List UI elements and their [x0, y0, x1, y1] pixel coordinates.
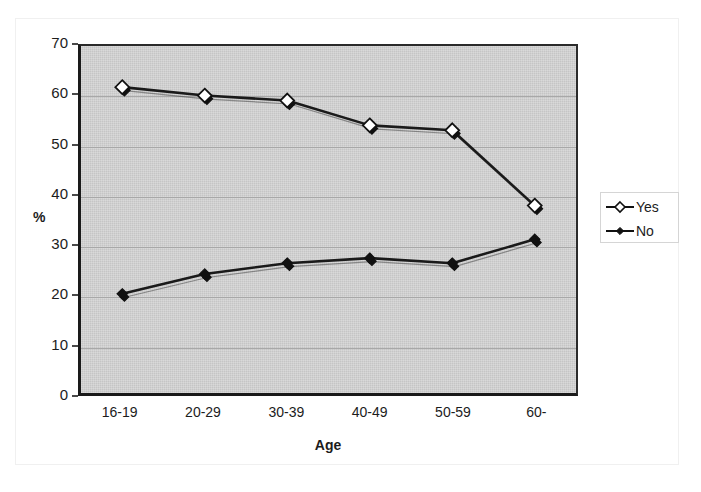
series-line-shadow	[125, 243, 537, 298]
y-axis-title: %	[33, 209, 45, 225]
plot-area	[78, 44, 578, 396]
legend-item[interactable]: Yes	[605, 196, 677, 218]
legend-label: Yes	[636, 199, 659, 215]
y-axis-tick-label: 30	[12, 235, 68, 252]
legend: YesNo	[600, 192, 679, 243]
legend-item[interactable]: No	[605, 220, 677, 242]
series-layer	[81, 46, 576, 393]
y-axis-tick-label: 60	[12, 84, 68, 101]
diamond-open-icon	[605, 196, 635, 218]
x-axis-title: Age	[78, 437, 578, 453]
y-axis-tick-label: 50	[12, 135, 68, 152]
y-axis-tick-label: 20	[12, 285, 68, 302]
legend-label: No	[636, 223, 654, 239]
series-line	[122, 239, 534, 294]
y-axis-tick-label: 40	[12, 185, 68, 202]
series-line	[122, 87, 534, 205]
x-axis-tick-label: 60-	[481, 404, 591, 420]
chart-figure: 706050403020100 % 16-1920-2930-3940-4950…	[0, 0, 701, 492]
diamond-filled-icon	[605, 220, 635, 242]
y-axis-tick-label: 10	[12, 336, 68, 353]
y-axis-tick-label: 70	[12, 34, 68, 51]
y-axis-tick-label: 0	[12, 386, 68, 403]
